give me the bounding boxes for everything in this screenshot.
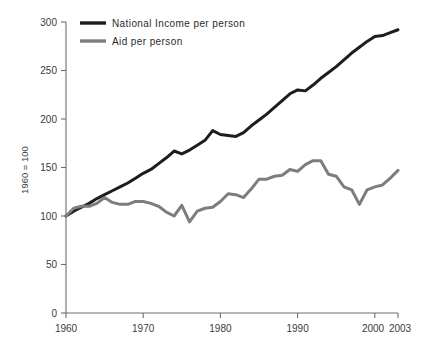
x-tick-label-2000: 2000 — [362, 323, 385, 334]
line-chart: 0 50 100 150 200 250 300 1960 1970 1980 … — [0, 0, 423, 351]
y-tick-label-0: 0 — [51, 308, 57, 319]
legend-label-aid: Aid per person — [112, 36, 183, 47]
y-tick-label-250: 250 — [40, 65, 57, 76]
chart-container: 0 50 100 150 200 250 300 1960 1970 1980 … — [0, 0, 423, 351]
y-tick-label-200: 200 — [40, 114, 57, 125]
y-tick-label-300: 300 — [40, 17, 57, 28]
x-tick-label-2003: 2003 — [389, 323, 412, 334]
x-tick-label-1960: 1960 — [55, 323, 78, 334]
y-tick-label-50: 50 — [46, 259, 58, 270]
chart-background — [0, 0, 423, 351]
x-tick-label-1970: 1970 — [132, 323, 155, 334]
y-tick-label-150: 150 — [40, 162, 57, 173]
x-tick-label-1990: 1990 — [286, 323, 309, 334]
legend-label-national-income: National Income per person — [112, 18, 245, 29]
x-tick-label-1980: 1980 — [209, 323, 232, 334]
y-axis-title: 1960 = 100 — [19, 146, 30, 194]
y-tick-label-100: 100 — [40, 211, 57, 222]
